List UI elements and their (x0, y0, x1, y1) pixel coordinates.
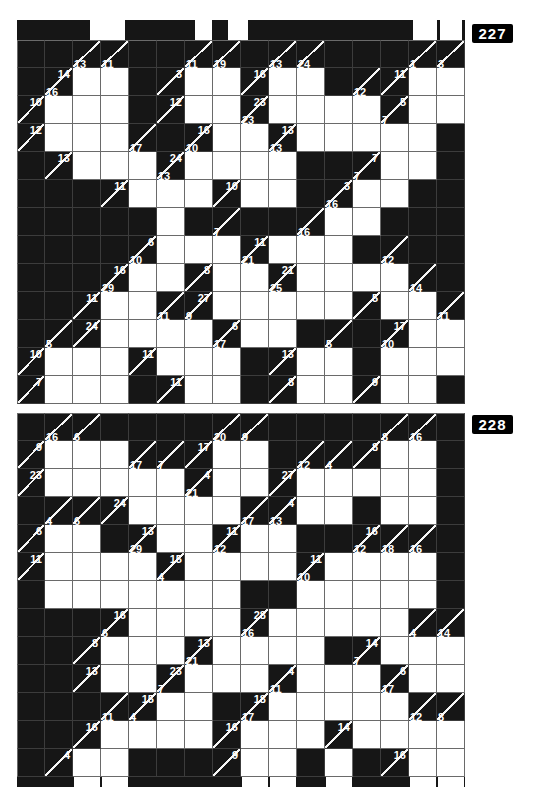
entry-cell-empty[interactable] (297, 376, 325, 404)
entry-cell-empty[interactable] (101, 320, 129, 348)
entry-cell-empty[interactable] (101, 553, 129, 581)
entry-cell-empty[interactable] (269, 236, 297, 264)
entry-cell-empty[interactable] (185, 721, 213, 749)
entry-cell-empty[interactable] (325, 609, 353, 637)
entry-cell-empty[interactable] (213, 441, 241, 469)
entry-cell-empty[interactable] (241, 320, 269, 348)
entry-cell-empty[interactable] (437, 320, 465, 348)
entry-cell-empty[interactable] (325, 469, 353, 497)
entry-cell-empty[interactable] (409, 497, 437, 525)
entry-cell-empty[interactable] (213, 497, 241, 525)
entry-cell-empty[interactable] (241, 665, 269, 693)
entry-cell-empty[interactable] (297, 348, 325, 376)
entry-cell-empty[interactable] (409, 320, 437, 348)
entry-cell-empty[interactable] (381, 721, 409, 749)
entry-cell-empty[interactable] (269, 152, 297, 180)
entry-cell-empty[interactable] (241, 124, 269, 152)
entry-cell-empty[interactable] (129, 497, 157, 525)
entry-cell-empty[interactable] (129, 469, 157, 497)
entry-cell-empty[interactable] (101, 749, 129, 777)
entry-cell-empty[interactable] (241, 292, 269, 320)
entry-cell-empty[interactable] (269, 68, 297, 96)
entry-cell-empty[interactable] (129, 553, 157, 581)
entry-cell-empty[interactable] (269, 180, 297, 208)
entry-cell-empty[interactable] (297, 264, 325, 292)
entry-cell-empty[interactable] (101, 721, 129, 749)
entry-cell-empty[interactable] (325, 581, 353, 609)
entry-cell-empty[interactable] (325, 348, 353, 376)
entry-cell-empty[interactable] (213, 152, 241, 180)
entry-cell-empty[interactable] (157, 497, 185, 525)
entry-cell-empty[interactable] (437, 665, 465, 693)
entry-cell-empty[interactable] (297, 637, 325, 665)
entry-cell-empty[interactable] (157, 236, 185, 264)
entry-cell-empty[interactable] (73, 68, 101, 96)
entry-cell-empty[interactable] (325, 665, 353, 693)
entry-cell-empty[interactable] (101, 581, 129, 609)
entry-cell-empty[interactable] (437, 348, 465, 376)
entry-cell-empty[interactable] (185, 553, 213, 581)
entry-cell-empty[interactable] (409, 721, 437, 749)
entry-cell-empty[interactable] (157, 320, 185, 348)
entry-cell-empty[interactable] (73, 152, 101, 180)
entry-cell-empty[interactable] (409, 441, 437, 469)
entry-cell-empty[interactable] (269, 749, 297, 777)
entry-cell-empty[interactable] (353, 264, 381, 292)
entry-cell-empty[interactable] (213, 348, 241, 376)
entry-cell-empty[interactable] (241, 525, 269, 553)
entry-cell-empty[interactable] (437, 68, 465, 96)
entry-cell-empty[interactable] (73, 96, 101, 124)
entry-cell-empty[interactable] (101, 637, 129, 665)
entry-cell-empty[interactable] (409, 581, 437, 609)
entry-cell-empty[interactable] (185, 581, 213, 609)
entry-cell-empty[interactable] (409, 292, 437, 320)
entry-cell-empty[interactable] (409, 749, 437, 777)
entry-cell-empty[interactable] (213, 292, 241, 320)
entry-cell-empty[interactable] (157, 693, 185, 721)
entry-cell-empty[interactable] (325, 96, 353, 124)
entry-cell-empty[interactable] (241, 152, 269, 180)
entry-cell-empty[interactable] (213, 609, 241, 637)
entry-cell-empty[interactable] (185, 497, 213, 525)
entry-cell-empty[interactable] (381, 609, 409, 637)
entry-cell-empty[interactable] (241, 180, 269, 208)
entry-cell-empty[interactable] (409, 376, 437, 404)
entry-cell-empty[interactable] (213, 553, 241, 581)
entry-cell-empty[interactable] (409, 469, 437, 497)
entry-cell-empty[interactable] (297, 68, 325, 96)
entry-cell-empty[interactable] (381, 581, 409, 609)
entry-cell-empty[interactable] (409, 96, 437, 124)
entry-cell-empty[interactable] (185, 609, 213, 637)
entry-cell-empty[interactable] (213, 236, 241, 264)
entry-cell-empty[interactable] (73, 553, 101, 581)
entry-cell-empty[interactable] (157, 637, 185, 665)
entry-cell-empty[interactable] (353, 609, 381, 637)
entry-cell-empty[interactable] (157, 469, 185, 497)
entry-cell-empty[interactable] (409, 348, 437, 376)
entry-cell-empty[interactable] (325, 292, 353, 320)
entry-cell-empty[interactable] (297, 721, 325, 749)
entry-cell-empty[interactable] (409, 124, 437, 152)
entry-cell-empty[interactable] (73, 469, 101, 497)
entry-cell-empty[interactable] (325, 264, 353, 292)
entry-cell-empty[interactable] (185, 348, 213, 376)
entry-cell-empty[interactable] (297, 469, 325, 497)
entry-cell-empty[interactable] (101, 68, 129, 96)
entry-cell-empty[interactable] (157, 581, 185, 609)
entry-cell-empty[interactable] (185, 693, 213, 721)
entry-cell-empty[interactable] (325, 693, 353, 721)
entry-cell-empty[interactable] (45, 124, 73, 152)
entry-cell-empty[interactable] (269, 96, 297, 124)
entry-cell-empty[interactable] (45, 348, 73, 376)
entry-cell-empty[interactable] (45, 441, 73, 469)
entry-cell-empty[interactable] (45, 553, 73, 581)
entry-cell-empty[interactable] (297, 581, 325, 609)
entry-cell-empty[interactable] (297, 124, 325, 152)
entry-cell-empty[interactable] (241, 469, 269, 497)
entry-cell-empty[interactable] (353, 665, 381, 693)
entry-cell-empty[interactable] (297, 96, 325, 124)
entry-cell-empty[interactable] (381, 497, 409, 525)
entry-cell-empty[interactable] (213, 469, 241, 497)
entry-cell-empty[interactable] (185, 96, 213, 124)
entry-cell-empty[interactable] (213, 376, 241, 404)
